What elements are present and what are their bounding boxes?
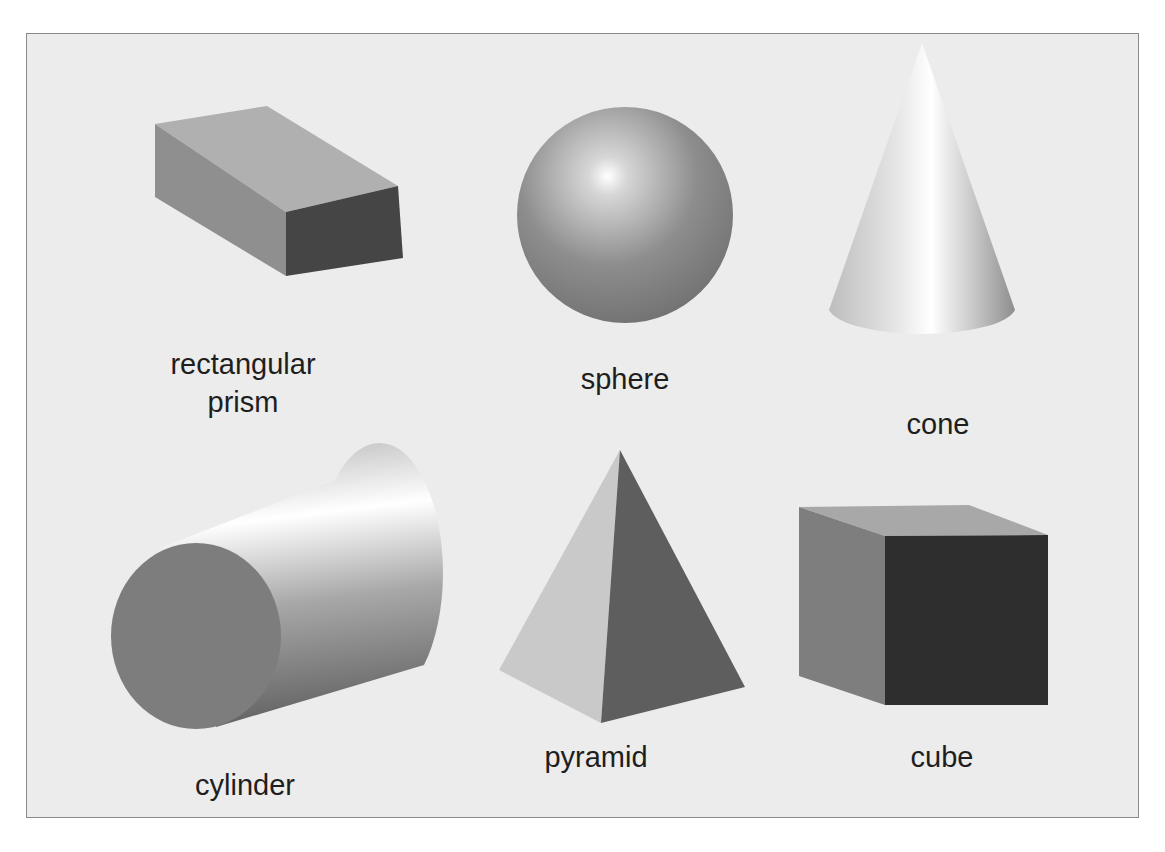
cube-shape [799,505,1048,705]
pyramid-shape [499,450,745,723]
label-cone: cone [907,405,970,443]
cone-shape [829,43,1015,334]
cylinder-shape [111,443,443,729]
label-sphere: sphere [581,360,670,398]
rectangular-prism-shape [155,106,403,276]
label-cylinder: cylinder [195,766,295,804]
label-rectangular-prism: rectangular prism [170,345,315,421]
sphere-shape [517,107,733,323]
label-cube: cube [911,738,974,776]
shapes-canvas [0,0,1165,852]
label-pyramid: pyramid [544,738,647,776]
